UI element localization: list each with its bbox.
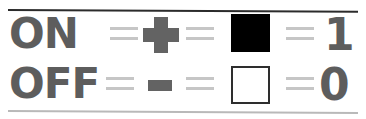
equals-sign-off-3 xyxy=(286,77,314,90)
equals-bar-lower xyxy=(106,87,134,90)
equals-bar-upper xyxy=(286,27,314,30)
equals-sign-on-2 xyxy=(186,27,214,40)
equals-sign-on-3 xyxy=(286,27,314,40)
bottom-divider-rule xyxy=(8,110,358,114)
binary-digit-zero: 0 xyxy=(319,63,350,107)
equals-bar-upper xyxy=(110,27,138,30)
equals-bar-lower xyxy=(286,37,314,40)
equals-bar-upper xyxy=(186,77,214,80)
state-label-on: ON xyxy=(9,13,78,55)
state-label-off: OFF xyxy=(9,63,99,105)
equals-sign-off-2 xyxy=(186,77,214,90)
plus-sign-icon xyxy=(143,17,179,53)
on-off-binary-legend: ON 1 OFF 0 xyxy=(0,0,366,119)
equals-bar-upper xyxy=(186,27,214,30)
equals-bar-lower xyxy=(186,87,214,90)
equals-bar-upper xyxy=(106,77,134,80)
equals-bar-upper xyxy=(286,77,314,80)
minus-sign-icon xyxy=(148,80,172,91)
equals-bar-lower xyxy=(110,37,138,40)
binary-digit-one: 1 xyxy=(324,13,355,57)
equals-sign-off-1 xyxy=(106,77,134,90)
equals-sign-on-1 xyxy=(110,27,138,40)
filled-square-icon xyxy=(231,14,270,52)
empty-square-icon xyxy=(231,66,270,104)
equals-bar-lower xyxy=(286,87,314,90)
equals-bar-lower xyxy=(186,37,214,40)
plus-horizontal-arm xyxy=(143,28,179,42)
